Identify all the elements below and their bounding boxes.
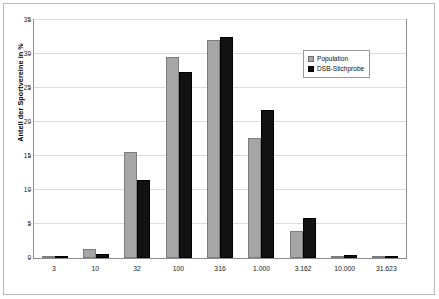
x-axis-tick-label: 1.000: [241, 262, 283, 278]
x-axis-tick-label: 3: [33, 262, 75, 278]
bar-dsb-stichprobe[interactable]: [261, 110, 274, 258]
chart-legend: Population DSB-Stichprobe: [303, 50, 370, 78]
bar-population[interactable]: [290, 231, 303, 258]
bar-population[interactable]: [124, 152, 137, 258]
y-axis-tick-mark: [28, 156, 31, 157]
x-axis-tick-label: 10: [75, 262, 117, 278]
bar-dsb-stichprobe[interactable]: [303, 218, 316, 258]
chart-figure: Anteil der Sportvereine in % 05101520253…: [0, 0, 439, 299]
bar-dsb-stichprobe[interactable]: [179, 72, 192, 258]
legend-label-population: Population: [317, 56, 348, 63]
y-axis-tick-labels: 05101520253035: [0, 19, 31, 259]
bar-population[interactable]: [372, 256, 385, 258]
bar-dsb-stichprobe[interactable]: [96, 254, 109, 258]
bar-dsb-stichprobe[interactable]: [137, 180, 150, 258]
bar-group: [117, 20, 158, 258]
x-axis-tick-label: 31.623: [366, 262, 408, 278]
y-axis-tick-mark: [28, 258, 31, 259]
bar-population[interactable]: [83, 249, 96, 258]
legend-item-population[interactable]: Population: [308, 54, 364, 64]
bar-population[interactable]: [42, 256, 55, 258]
legend-swatch-dsb-stichprobe-icon: [308, 66, 314, 72]
bar-population[interactable]: [166, 57, 179, 258]
bar-dsb-stichprobe[interactable]: [55, 256, 68, 258]
y-axis-tick-mark: [28, 88, 31, 89]
bar-population[interactable]: [207, 40, 220, 258]
x-axis-tick-label: 316: [199, 262, 241, 278]
x-axis-tick-label: 32: [116, 262, 158, 278]
y-axis-tick-mark: [28, 122, 31, 123]
bar-group: [241, 20, 282, 258]
bar-dsb-stichprobe[interactable]: [385, 256, 398, 258]
x-axis-tick-labels: 310321003161.0003.16210.00031.623: [33, 262, 407, 278]
y-axis-tick-mark: [28, 20, 31, 21]
bar-group: [34, 20, 75, 258]
bar-group: [199, 20, 240, 258]
x-axis-tick-label: 10.000: [324, 262, 366, 278]
bar-group: [158, 20, 199, 258]
y-axis-tick-mark: [28, 190, 31, 191]
bar-dsb-stichprobe[interactable]: [220, 37, 233, 258]
legend-item-dsb-stichprobe[interactable]: DSB-Stichprobe: [308, 64, 364, 74]
x-axis-tick-label: 100: [158, 262, 200, 278]
y-axis-tick-mark: [28, 224, 31, 225]
bar-group: [365, 20, 406, 258]
y-axis-tick-mark: [28, 54, 31, 55]
bar-group: [75, 20, 116, 258]
legend-swatch-population-icon: [308, 56, 314, 62]
bar-dsb-stichprobe[interactable]: [344, 255, 357, 258]
bar-population[interactable]: [331, 256, 344, 258]
x-axis-tick-label: 3.162: [282, 262, 324, 278]
bar-population[interactable]: [248, 138, 261, 258]
legend-label-dsb-stichprobe: DSB-Stichprobe: [317, 66, 364, 73]
